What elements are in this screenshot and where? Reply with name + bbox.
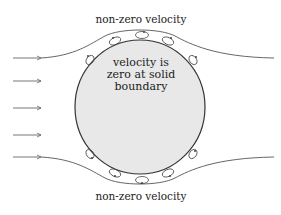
- flow-diagram: non-zero velocity non-zero velocity velo…: [0, 0, 281, 215]
- center-label-line-3: boundary: [115, 80, 169, 93]
- inflow-arrows: [13, 58, 41, 157]
- vortex-icon: [136, 32, 149, 39]
- bottom-label: non-zero velocity: [95, 190, 186, 202]
- top-label: non-zero velocity: [95, 13, 186, 25]
